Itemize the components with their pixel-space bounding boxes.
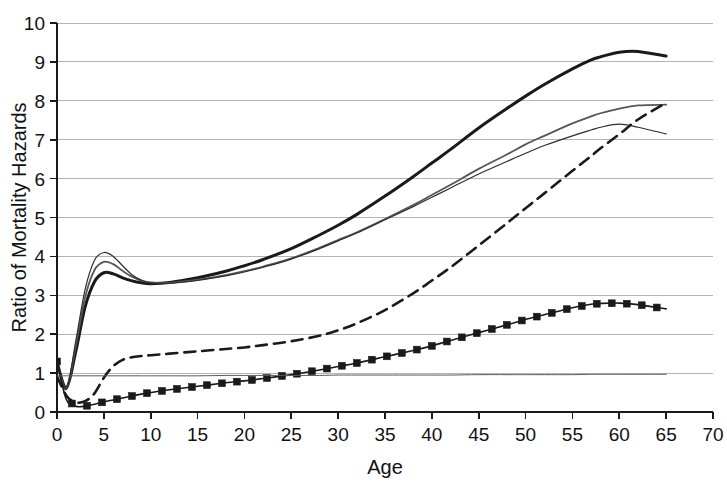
x-tick-label: 70 — [702, 424, 723, 445]
data-point-marker — [234, 378, 241, 385]
y-tick-label: 7 — [34, 130, 45, 151]
data-point-marker — [578, 303, 585, 310]
series-group — [54, 51, 667, 409]
x-tick-label: 50 — [515, 424, 536, 445]
y-tick-label: 5 — [34, 208, 45, 229]
x-axis-title: Age — [367, 456, 403, 478]
y-tick-label: 6 — [34, 169, 45, 190]
data-point-marker — [593, 300, 600, 307]
data-point-marker — [503, 321, 510, 328]
x-tick-label: 10 — [140, 424, 161, 445]
chart-canvas: 0123456789100510152025303540455055606570… — [0, 0, 727, 494]
data-point-marker — [84, 402, 91, 409]
data-point-marker — [608, 300, 615, 307]
y-tick-label: 9 — [34, 52, 45, 73]
data-point-marker — [114, 396, 121, 403]
data-point-marker — [653, 304, 660, 311]
x-tick-label: 5 — [99, 424, 110, 445]
y-tick-label: 4 — [34, 246, 45, 267]
series-line-reference-line — [57, 374, 666, 376]
data-point-marker — [368, 356, 375, 363]
data-point-marker — [473, 330, 480, 337]
x-tick-label: 55 — [562, 424, 583, 445]
data-point-marker — [398, 350, 405, 357]
data-point-marker — [458, 334, 465, 341]
data-point-marker — [309, 368, 316, 375]
x-tick-label: 25 — [281, 424, 302, 445]
x-tick-label: 65 — [656, 424, 677, 445]
data-point-marker — [54, 358, 61, 365]
data-point-marker — [338, 362, 345, 369]
data-point-marker — [638, 302, 645, 309]
data-point-marker — [443, 338, 450, 345]
y-tick-label: 8 — [34, 91, 45, 112]
data-point-marker — [428, 342, 435, 349]
data-point-marker — [159, 388, 166, 395]
y-tick-label: 2 — [34, 324, 45, 345]
data-point-marker — [204, 382, 211, 389]
y-tick-label: 1 — [34, 363, 45, 384]
data-point-marker — [294, 370, 301, 377]
x-tick-label: 20 — [234, 424, 255, 445]
series-line-curve-thin-dark — [57, 124, 666, 390]
series-line-curve-medium-gray — [57, 105, 666, 389]
data-point-marker — [353, 360, 360, 367]
data-point-marker — [219, 380, 226, 387]
series-line-curve-thick-black — [57, 51, 666, 388]
y-axis-title: Ratio of Mortality Hazards — [8, 102, 30, 332]
data-point-marker — [189, 384, 196, 391]
x-tick-label: 15 — [187, 424, 208, 445]
data-point-marker — [533, 313, 540, 320]
data-point-marker — [518, 317, 525, 324]
data-point-marker — [129, 393, 136, 400]
y-tick-label: 3 — [34, 285, 45, 306]
data-point-marker — [383, 353, 390, 360]
y-tick-label: 10 — [24, 13, 45, 34]
data-point-marker — [174, 385, 181, 392]
x-tick-label: 30 — [328, 424, 349, 445]
data-point-marker — [413, 346, 420, 353]
data-point-marker — [488, 326, 495, 333]
x-tick-label: 0 — [52, 424, 63, 445]
data-point-marker — [548, 309, 555, 316]
data-point-marker — [323, 365, 330, 372]
y-tick-label: 0 — [34, 402, 45, 423]
data-point-marker — [563, 306, 570, 313]
x-tick-label: 40 — [421, 424, 442, 445]
data-point-marker — [144, 390, 151, 397]
data-point-marker — [99, 399, 106, 406]
x-tick-label: 45 — [468, 424, 489, 445]
series-line-curve-dashed — [57, 103, 666, 403]
data-point-marker — [69, 400, 76, 407]
data-point-marker — [279, 373, 286, 380]
x-tick-label: 60 — [609, 424, 630, 445]
x-tick-label: 35 — [374, 424, 395, 445]
mortality-hazard-ratio-chart: 0123456789100510152025303540455055606570… — [0, 0, 727, 494]
data-point-marker — [623, 300, 630, 307]
data-point-marker — [249, 377, 256, 384]
